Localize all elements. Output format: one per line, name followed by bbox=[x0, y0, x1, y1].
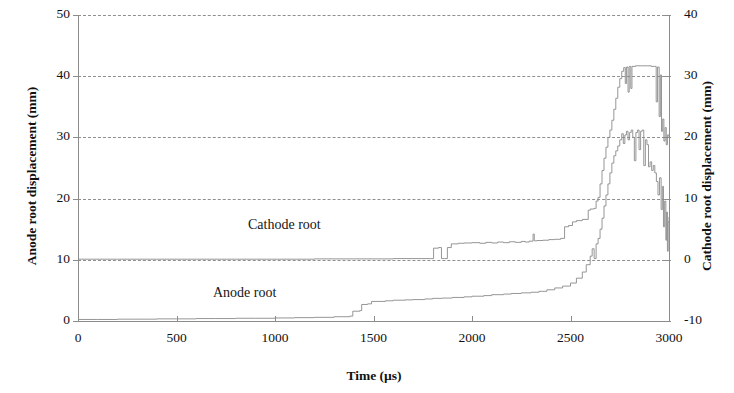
annotation-cathode-root: Cathode root bbox=[248, 217, 321, 233]
y-axis-right-tick-label: 30 bbox=[684, 67, 718, 83]
plot-area: Cathode root Anode root bbox=[78, 15, 670, 322]
cathode-root-curve bbox=[78, 66, 669, 259]
x-axis-title: Time (µs) bbox=[78, 368, 670, 384]
x-axis-tick-label: 1500 bbox=[344, 330, 404, 346]
annotation-anode-root: Anode root bbox=[213, 285, 276, 301]
y-axis-left-tick-label: 50 bbox=[40, 6, 70, 22]
data-curves bbox=[78, 15, 670, 322]
x-axis-tick-label: 3000 bbox=[639, 330, 699, 346]
y-axis-right-tick-label: -10 bbox=[684, 312, 718, 328]
y-axis-left-tick-label: 10 bbox=[40, 251, 70, 267]
x-axis-tick-label: 1000 bbox=[245, 330, 305, 346]
y-axis-left-tick-label: 0 bbox=[40, 312, 70, 328]
x-axis-tick-label: 0 bbox=[48, 330, 108, 346]
y-axis-left-tick-label: 40 bbox=[40, 67, 70, 83]
chart-figure: Anode root displacement (mm) Cathode roo… bbox=[0, 0, 734, 393]
y-axis-left-title: Anode root displacement (mm) bbox=[24, 41, 40, 311]
x-axis-tick-label: 500 bbox=[147, 330, 207, 346]
y-axis-left-tick-label: 30 bbox=[40, 128, 70, 144]
y-axis-right-tick-label: 0 bbox=[684, 251, 718, 267]
anode-root-curve bbox=[78, 130, 669, 319]
x-axis-tick-label: 2000 bbox=[442, 330, 502, 346]
y-axis-right-tick-label: 20 bbox=[684, 128, 718, 144]
y-axis-right-tick-label: 10 bbox=[684, 190, 718, 206]
y-axis-left-tick-label: 20 bbox=[40, 190, 70, 206]
x-axis-tick-label: 2500 bbox=[541, 330, 601, 346]
y-axis-right-tick-label: 40 bbox=[684, 6, 718, 22]
